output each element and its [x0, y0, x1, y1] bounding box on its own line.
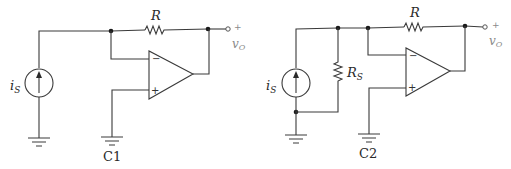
- c2-opamp-minus: −: [409, 50, 417, 61]
- c2-resistor-label: R: [409, 5, 420, 20]
- c1-noninverting-wire: [112, 90, 149, 137]
- c2-output-terminal[interactable]: [483, 25, 487, 29]
- c2-inverting-wire: [368, 28, 406, 55]
- c2-ground-icon-source: [285, 135, 307, 143]
- c1-resistor-label: R: [150, 8, 161, 23]
- circuit-c2: R + vO RS − + iS: [266, 5, 503, 161]
- c2-output-feedback-wire: [450, 26, 465, 71]
- c1-output-label: vO: [232, 37, 246, 52]
- c1-opamp-icon: − +: [149, 51, 193, 99]
- circuit-diagrams: R + vO − + iS: [0, 0, 511, 169]
- c2-source-label: iS: [266, 78, 276, 95]
- c2-output-wire: [465, 26, 483, 27]
- c1-top-wire: [39, 30, 145, 68]
- c2-opamp-plus: +: [408, 82, 416, 93]
- c1-junction-output: [206, 27, 211, 32]
- c1-caption: C1: [103, 149, 121, 164]
- c2-source-resistor-icon: [296, 28, 342, 112]
- c1-feedback-resistor-icon: [145, 26, 208, 34]
- c2-ground-icon-opamp: [358, 134, 380, 142]
- c2-current-source-icon: [282, 69, 310, 97]
- c2-output-plus: +: [492, 20, 500, 30]
- c2-noninverting-wire: [369, 88, 406, 134]
- c1-opamp-plus: +: [151, 85, 159, 96]
- c1-output-feedback-wire: [193, 29, 209, 74]
- c2-opamp-icon: − +: [406, 48, 450, 96]
- c2-rs-label: RS: [346, 65, 363, 82]
- c1-output-terminal[interactable]: [226, 27, 230, 31]
- c1-source-label: iS: [10, 78, 20, 95]
- c1-output-plus: +: [234, 22, 242, 32]
- c2-feedback-resistor-icon: [404, 23, 465, 31]
- c1-ground-icon-source: [28, 138, 50, 146]
- c1-inverting-wire: [111, 31, 149, 59]
- c1-current-source-icon: [25, 69, 53, 97]
- c2-caption: C2: [359, 146, 377, 161]
- c1-ground-icon-opamp: [101, 137, 123, 145]
- circuit-c1: R + vO − + iS: [10, 8, 246, 164]
- c1-opamp-minus: −: [152, 53, 160, 64]
- c2-top-wire: [296, 27, 404, 68]
- c2-output-label: vO: [489, 34, 503, 49]
